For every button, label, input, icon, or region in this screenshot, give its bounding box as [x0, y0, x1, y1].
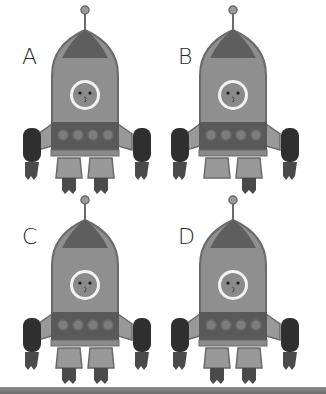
rocket-icon — [0, 0, 163, 195]
option-a[interactable]: A — [0, 0, 163, 185]
spot-the-difference-puzzle: A — [0, 0, 326, 394]
rocket-icon — [148, 0, 311, 195]
bottom-divider — [0, 387, 326, 394]
option-d[interactable]: D — [148, 190, 311, 375]
option-b[interactable]: B — [148, 0, 311, 185]
option-c[interactable]: C — [0, 190, 163, 375]
rocket-icon — [0, 190, 163, 385]
rocket-icon — [148, 190, 311, 385]
